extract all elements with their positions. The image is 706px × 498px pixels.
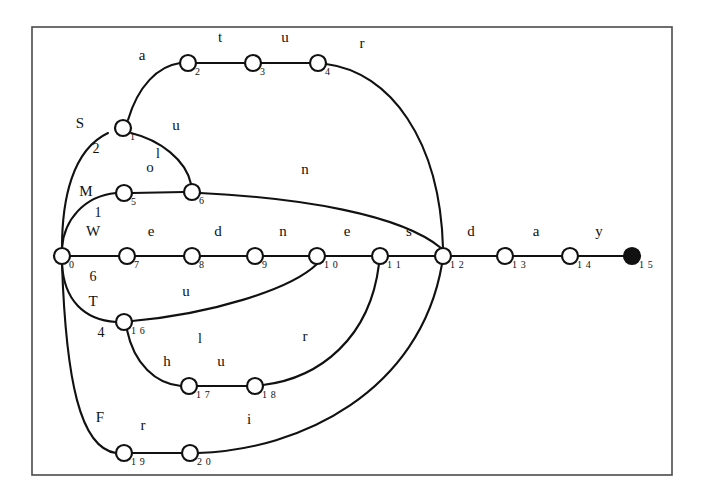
edge-label-16-10: u [182, 283, 190, 299]
node-index-16: 1 6 [131, 325, 145, 336]
nodes-layer [54, 55, 640, 461]
edge-label-6-12: n [301, 161, 309, 177]
node-9[interactable] [247, 248, 263, 264]
node-index-6: 6 [199, 195, 205, 206]
edge-label-7-8: e [148, 223, 155, 239]
node-5[interactable] [116, 185, 132, 201]
node-index-11: 1 1 [387, 259, 401, 270]
edge-label-1-2: a [139, 47, 146, 63]
edge-16-10 [132, 264, 317, 321]
node-14[interactable] [562, 248, 578, 264]
node-index-18: 1 8 [262, 389, 276, 400]
node-4[interactable] [310, 55, 326, 71]
node-1[interactable] [115, 120, 131, 136]
node-index-15: 1 5 [639, 259, 653, 270]
node-0[interactable] [54, 248, 70, 264]
edge-sublabel-16-10: l [198, 331, 202, 346]
node-index-12: 1 2 [450, 259, 464, 270]
edge-18-11 [263, 264, 379, 385]
node-19[interactable] [116, 445, 132, 461]
edge-label-0-7: W [86, 223, 101, 239]
node-7[interactable] [119, 248, 135, 264]
node-11[interactable] [372, 248, 388, 264]
node-13[interactable] [497, 248, 513, 264]
edge-label-20-12: i [247, 411, 251, 427]
edge-sublabel-0-1: 2 [93, 141, 100, 156]
edge-label-10-11: e [344, 223, 351, 239]
edge-sublabel-0-5: 1 [95, 205, 102, 220]
edge-labels-layer: S2aturulM1onW6ednesdayT4ulhurFri [76, 29, 603, 433]
node-2[interactable] [180, 55, 196, 71]
trie-figure: S2aturulM1onW6ednesdayT4ulhurFri 0123456… [0, 0, 706, 498]
node-index-10: 1 0 [324, 259, 338, 270]
node-indices-layer: 01234567891 01 11 21 31 41 51 61 71 81 9… [69, 66, 653, 467]
edge-label-11-12: s [406, 223, 412, 239]
node-16[interactable] [116, 314, 132, 330]
edge-0-5 [62, 193, 116, 248]
edge-label-8-9: d [214, 223, 222, 239]
edge-label-18-11: r [303, 328, 308, 344]
edge-sublabel-0-16: 4 [98, 325, 105, 340]
node-index-4: 4 [325, 66, 331, 77]
node-index-1: 1 [130, 131, 136, 142]
edge-label-16-17: h [163, 353, 171, 369]
edge-sublabel-1-6: l [156, 146, 160, 161]
node-index-9: 9 [262, 259, 268, 270]
node-15[interactable] [624, 248, 640, 264]
node-3[interactable] [245, 55, 261, 71]
node-index-3: 3 [260, 66, 266, 77]
node-index-8: 8 [199, 259, 205, 270]
edge-label-1-6: u [172, 117, 180, 133]
node-8[interactable] [184, 248, 200, 264]
edge-label-13-14: a [533, 223, 540, 239]
edge-label-9-10: n [279, 223, 287, 239]
edge-label-0-1: S [76, 115, 84, 131]
edge-sublabel-0-7: 6 [90, 269, 97, 284]
node-index-2: 2 [195, 66, 201, 77]
edge-6-12 [200, 193, 441, 248]
edge-20-12 [198, 264, 442, 453]
node-10[interactable] [309, 248, 325, 264]
node-index-13: 1 3 [512, 259, 526, 270]
node-index-0: 0 [69, 259, 75, 270]
edge-5-6 [132, 192, 184, 193]
node-12[interactable] [435, 248, 451, 264]
edge-1-6 [131, 133, 191, 184]
edge-label-0-5: M [79, 183, 92, 199]
edge-label-3-4: u [281, 29, 289, 45]
node-17[interactable] [181, 378, 197, 394]
edge-label-4-12: r [360, 35, 365, 51]
node-20[interactable] [182, 445, 198, 461]
node-index-20: 2 0 [197, 456, 211, 467]
edge-label-2-3: t [218, 29, 223, 45]
node-index-5: 5 [131, 196, 137, 207]
node-6[interactable] [184, 184, 200, 200]
edge-1-2 [128, 63, 180, 120]
edge-label-0-19: F [96, 409, 104, 425]
edge-label-19-20: r [141, 417, 146, 433]
edge-label-17-18: u [217, 353, 225, 369]
node-index-19: 1 9 [131, 456, 145, 467]
edge-16-17 [127, 330, 181, 386]
edges-layer [62, 63, 625, 453]
node-index-17: 1 7 [196, 389, 210, 400]
node-index-14: 1 4 [577, 259, 591, 270]
node-index-7: 7 [134, 259, 140, 270]
edge-label-14-15: y [595, 223, 603, 239]
node-18[interactable] [247, 378, 263, 394]
edge-label-5-6: o [146, 159, 154, 175]
edge-label-12-13: d [467, 223, 475, 239]
graph-canvas: S2aturulM1onW6ednesdayT4ulhurFri 0123456… [0, 0, 706, 498]
edge-label-0-16: T [88, 293, 97, 309]
